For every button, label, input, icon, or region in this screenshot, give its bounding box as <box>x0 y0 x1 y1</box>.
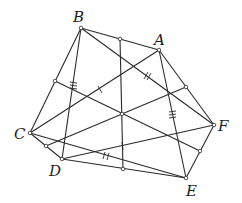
diagonal-AC <box>30 50 159 133</box>
line-midAF-midDC <box>46 87 186 146</box>
midpoint-ED <box>121 167 125 171</box>
center-point <box>120 112 124 116</box>
double-tick-3 <box>103 152 105 159</box>
midpoint-CB <box>53 79 57 83</box>
diagram-canvas: B A C D E F <box>0 0 242 203</box>
line-midCB-midFE <box>55 81 200 151</box>
triple-tick-6 <box>169 117 176 118</box>
midpoint-DC <box>44 144 48 148</box>
midpoint-BA <box>118 37 122 41</box>
triple-tick-5 <box>169 114 176 115</box>
label-B: B <box>72 8 84 26</box>
label-C: C <box>14 125 26 143</box>
double-tick-4 <box>107 153 109 160</box>
triple-tick-4 <box>169 111 176 112</box>
point-C <box>28 131 32 135</box>
point-D <box>60 157 64 161</box>
point-B <box>79 26 83 30</box>
diagonal-BF <box>81 28 214 125</box>
triple-tick-2 <box>70 85 77 86</box>
midpoint-FE <box>198 149 202 153</box>
geometry-diagram: B A C D E F <box>0 0 242 203</box>
label-E: E <box>185 182 197 200</box>
point-E <box>184 176 188 180</box>
triple-tick-1 <box>70 82 77 83</box>
label-A: A <box>152 31 165 49</box>
label-F: F <box>217 117 229 135</box>
midpoint-AF <box>184 85 188 89</box>
double-tick-1 <box>144 72 148 79</box>
label-D: D <box>48 162 61 180</box>
point-F <box>212 123 216 127</box>
